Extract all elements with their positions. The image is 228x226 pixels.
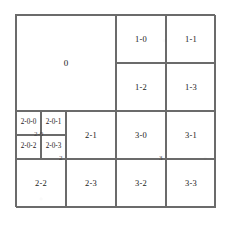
quadtree-cell-2-0-2: 2-0-2 xyxy=(16,135,41,159)
quadtree-cell-1-1: 1-1 xyxy=(166,15,216,63)
quadtree-cell-label: 2-2 xyxy=(35,179,47,188)
quadtree-cell-label: 0 xyxy=(64,59,69,68)
quadtree-node-marker-2: 2 xyxy=(59,155,63,162)
quadtree-cell-label: 3-0 xyxy=(135,131,147,140)
quadtree-cell-label: 2-0-1 xyxy=(46,119,62,126)
quadtree-cell-label: 1-0 xyxy=(135,35,147,44)
quadtree-cell-label: 2-1 xyxy=(85,131,97,140)
quadtree-cell-label: 2-0-2 xyxy=(21,143,37,150)
quadtree-cell-label: 3-3 xyxy=(185,179,197,188)
quadtree-node-marker-3: 3 xyxy=(159,155,163,162)
quadtree-diagram: 01-01-11-21-32-0-02-0-12-0-22-0-32-12-22… xyxy=(0,0,228,226)
quadtree-cell-1-0: 1-0 xyxy=(116,15,166,63)
quadtree-cell-label: 2-3 xyxy=(85,179,97,188)
quadtree-cell-3-1: 3-1 xyxy=(166,111,216,159)
quadtree-cell-2-1: 2-1 xyxy=(66,111,116,159)
quadtree-cell-label: 1-2 xyxy=(135,83,147,92)
quadtree-cell-1-2: 1-2 xyxy=(116,63,166,111)
quadtree-node-marker-2-0: 2-0 xyxy=(34,131,43,138)
quadtree-cell-label: 3-1 xyxy=(185,131,197,140)
quadtree-cell-1-3: 1-3 xyxy=(166,63,216,111)
quadtree-root-frame: 01-01-11-21-32-0-02-0-12-0-22-0-32-12-22… xyxy=(15,14,215,207)
quadtree-cell-3-3: 3-3 xyxy=(166,159,216,208)
quadtree-cell-2-0-1: 2-0-1 xyxy=(41,111,66,135)
quadtree-cell-label: 3-2 xyxy=(135,179,147,188)
quadtree-cell-label: 2-0-0 xyxy=(21,119,37,126)
quadtree-cell-2-3: 2-3 xyxy=(66,159,116,208)
quadtree-cell-0: 0 xyxy=(16,15,116,111)
quadtree-cell-label: 2-0-3 xyxy=(46,143,62,150)
quadtree-cell-label: 1-3 xyxy=(185,83,197,92)
quadtree-cell-2-2: 2-2 xyxy=(16,159,66,208)
quadtree-cell-3-2: 3-2 xyxy=(116,159,166,208)
quadtree-cell-3-0: 3-0 xyxy=(116,111,166,159)
quadtree-cell-label: 1-1 xyxy=(185,35,197,44)
